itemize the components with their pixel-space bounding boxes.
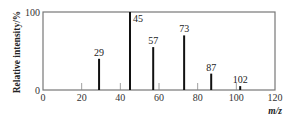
peak-label-73: 73 — [179, 23, 189, 34]
peak-label-102: 102 — [233, 74, 248, 85]
x-tick-label: 0 — [41, 92, 46, 103]
peak-label-57: 57 — [148, 35, 158, 46]
y-axis-label: Relative intensity/% — [12, 11, 22, 94]
x-tick-label: 120 — [268, 92, 283, 103]
x-tick-label: 80 — [193, 92, 203, 103]
x-axis-label: m/z — [268, 106, 282, 116]
y-tick-100: 100 — [25, 7, 40, 18]
peaks: 2945577387102 — [94, 12, 248, 90]
x-tick-label: 20 — [77, 92, 87, 103]
peak-label-45: 45 — [133, 13, 143, 24]
x-axis-ticks: 020406080100120 — [41, 83, 283, 103]
x-tick-label: 100 — [229, 92, 244, 103]
x-tick-label: 60 — [154, 92, 164, 103]
peak-label-87: 87 — [206, 62, 216, 73]
peak-label-29: 29 — [94, 47, 104, 58]
mass-spectrum-chart: 020406080100120 2945577387102 100 0 Rela… — [0, 0, 291, 117]
y-tick-0: 0 — [35, 85, 40, 96]
x-tick-label: 40 — [115, 92, 125, 103]
